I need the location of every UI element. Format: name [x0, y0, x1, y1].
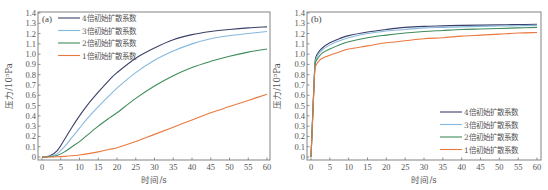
legend-label: 1倍初始扩散系数	[82, 51, 137, 61]
y-tick-label: 1.3	[294, 18, 305, 28]
y-tick-label: 0.5	[25, 101, 36, 111]
series-line	[42, 49, 267, 157]
x-tick-label: 5	[59, 162, 63, 172]
y-tick-label: 1.0	[294, 49, 305, 59]
legend-label: 3倍初始扩散系数	[82, 26, 137, 36]
y-tick-label: 0.2	[25, 131, 36, 141]
x-tick-label: 55	[244, 162, 253, 172]
y-tick-label: 0.7	[294, 80, 305, 90]
y-tick-label: 1.2	[25, 29, 36, 39]
y-tick-label: 0.3	[25, 121, 36, 131]
chart-canvas: 05101520253035404550556000.10.20.30.40.5…	[0, 0, 548, 190]
x-tick-label: 30	[420, 162, 429, 172]
legend-label: 2倍初始扩散系数	[82, 38, 137, 48]
x-tick-label: 45	[207, 162, 216, 172]
y-tick-label: 1.4	[25, 8, 36, 18]
y-axis-label: 压力/10⁵Pa	[272, 63, 282, 109]
x-tick-label: 10	[75, 162, 84, 172]
y-tick-label: 0.4	[25, 111, 36, 121]
y-tick-label: 0.4	[294, 111, 305, 121]
x-tick-label: 20	[113, 162, 122, 172]
x-tick-label: 45	[476, 162, 485, 172]
y-tick-label: 0.2	[294, 131, 305, 141]
x-axis-label: 时间/s	[141, 175, 166, 185]
x-tick-label: 0	[309, 162, 313, 172]
y-tick-label: 1.0	[25, 49, 36, 59]
y-tick-label: 0.8	[294, 70, 305, 80]
y-tick-label: 0.7	[25, 80, 36, 90]
y-tick-label: 0.8	[25, 70, 36, 80]
legend-label: 4倍初始扩散系数	[464, 107, 519, 117]
x-tick-label: 35	[169, 162, 178, 172]
series-line	[42, 94, 267, 157]
series-line	[42, 27, 267, 157]
y-tick-label: 0	[32, 152, 36, 162]
x-tick-label: 60	[533, 162, 542, 172]
x-tick-label: 40	[188, 162, 197, 172]
series-line	[42, 32, 267, 157]
x-tick-label: 20	[382, 162, 391, 172]
x-tick-label: 50	[225, 162, 234, 172]
y-tick-label: 0.9	[25, 59, 36, 69]
panel-tag: (a)	[42, 14, 52, 24]
legend: 4倍初始扩散系数3倍初始扩散系数2倍初始扩散系数1倍初始扩散系数	[58, 13, 137, 61]
panel-tag: (b)	[311, 14, 322, 24]
y-tick-label: 0	[301, 152, 305, 162]
x-tick-label: 0	[40, 162, 44, 172]
x-tick-label: 60	[263, 162, 272, 172]
y-tick-label: 0.3	[294, 121, 305, 131]
legend-label: 4倍初始扩散系数	[82, 13, 137, 23]
y-axis-label: 压力/10⁵Pa	[4, 63, 14, 109]
x-tick-label: 10	[344, 162, 353, 172]
x-tick-label: 50	[495, 162, 504, 172]
chart-panel-b: 05101520253035404550556000.10.20.30.40.5…	[272, 8, 541, 185]
y-tick-label: 0.5	[294, 101, 305, 111]
chart-panel-a: 05101520253035404550556000.10.20.30.40.5…	[4, 8, 271, 185]
x-tick-label: 55	[514, 162, 523, 172]
y-tick-label: 1.1	[294, 39, 305, 49]
figure: 05101520253035404550556000.10.20.30.40.5…	[0, 0, 548, 190]
x-tick-label: 25	[401, 162, 410, 172]
x-axis-label: 时间/s	[411, 175, 436, 185]
y-tick-label: 1.1	[25, 39, 36, 49]
legend-label: 3倍初始扩散系数	[464, 120, 519, 130]
y-tick-label: 1.3	[25, 18, 36, 28]
x-tick-label: 5	[328, 162, 332, 172]
legend-label: 1倍初始扩散系数	[464, 145, 519, 155]
legend-label: 2倍初始扩散系数	[464, 132, 519, 142]
y-tick-label: 0.1	[294, 142, 305, 152]
x-tick-label: 25	[132, 162, 141, 172]
y-tick-label: 1.2	[294, 29, 305, 39]
x-tick-label: 30	[150, 162, 159, 172]
x-tick-label: 40	[457, 162, 466, 172]
y-tick-label: 1.4	[294, 8, 305, 18]
legend: 4倍初始扩散系数3倍初始扩散系数2倍初始扩散系数1倍初始扩散系数	[440, 107, 519, 155]
y-tick-label: 0.6	[294, 90, 305, 100]
x-tick-label: 15	[94, 162, 103, 172]
x-tick-label: 15	[363, 162, 372, 172]
x-tick-label: 35	[439, 162, 448, 172]
y-tick-label: 0.6	[25, 90, 36, 100]
y-tick-label: 0.9	[294, 59, 305, 69]
y-tick-label: 0.1	[25, 142, 36, 152]
